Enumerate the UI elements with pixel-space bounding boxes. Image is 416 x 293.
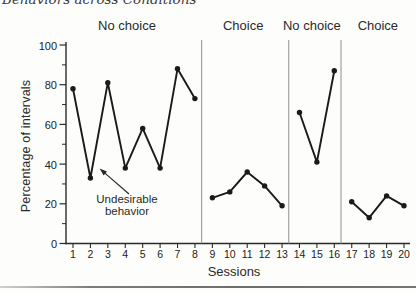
annotation-arrow-line — [105, 173, 129, 194]
phase-label-no-choice-3: No choice — [283, 18, 341, 33]
data-point-session-1 — [70, 86, 75, 91]
data-point-session-16 — [332, 68, 337, 73]
annotation-line-1: Undesirable — [67, 194, 187, 206]
x-tick-label-6: 6 — [157, 248, 163, 260]
phase-label-no-choice-1: No choice — [98, 18, 156, 33]
data-line — [300, 71, 335, 162]
x-axis-title: Sessions — [174, 264, 294, 279]
data-point-session-3 — [105, 80, 110, 85]
x-tick-label-12: 12 — [259, 248, 271, 260]
x-tick-label-18: 18 — [363, 248, 375, 260]
x-tick-label-20: 20 — [398, 248, 410, 260]
x-tick-label-7: 7 — [175, 248, 181, 260]
y-tick-label-0: 0 — [25, 238, 57, 250]
data-point-session-11 — [245, 169, 250, 174]
data-point-session-10 — [227, 189, 232, 194]
x-tick-label-2: 2 — [87, 248, 93, 260]
data-point-session-7 — [175, 66, 180, 71]
y-tick-label-20: 20 — [25, 198, 57, 210]
x-tick-label-13: 13 — [276, 248, 288, 260]
x-tick-label-5: 5 — [140, 248, 146, 260]
y-tick-label-60: 60 — [25, 119, 57, 131]
x-tick-label-9: 9 — [209, 248, 215, 260]
annotation-undesirable-behavior: Undesirable behavior — [67, 194, 187, 217]
data-point-session-9 — [210, 195, 215, 200]
data-point-session-19 — [384, 193, 389, 198]
data-point-session-6 — [157, 165, 162, 170]
x-tick-label-11: 11 — [242, 248, 253, 260]
x-tick-label-8: 8 — [192, 248, 198, 260]
data-point-session-18 — [367, 215, 372, 220]
annotation-line-2: behavior — [67, 206, 187, 218]
x-tick-label-14: 14 — [294, 248, 306, 260]
y-tick-label-80: 80 — [25, 79, 57, 91]
x-tick-label-4: 4 — [122, 248, 128, 260]
data-point-session-2 — [88, 175, 93, 180]
phase-label-choice-2: Choice — [223, 18, 263, 33]
data-point-session-13 — [279, 203, 284, 208]
y-tick-label-40: 40 — [25, 159, 57, 171]
phase-label-choice-4: Choice — [358, 18, 398, 33]
data-line — [212, 172, 282, 206]
data-point-session-14 — [297, 110, 302, 115]
x-tick-label-16: 16 — [328, 248, 340, 260]
data-point-session-8 — [192, 96, 197, 101]
data-point-session-20 — [401, 203, 406, 208]
figure-chart: Behaviors across Conditions Percentage o… — [0, 0, 416, 293]
data-point-session-5 — [140, 126, 145, 131]
data-line — [352, 196, 404, 218]
x-tick-label-19: 19 — [381, 248, 393, 260]
x-tick-label-15: 15 — [311, 248, 323, 260]
x-tick-label-10: 10 — [224, 248, 236, 260]
y-tick-label-100: 100 — [25, 40, 57, 52]
data-point-session-15 — [314, 159, 319, 164]
x-tick-label-17: 17 — [346, 248, 358, 260]
data-point-session-4 — [123, 165, 128, 170]
x-tick-label-3: 3 — [105, 248, 111, 260]
data-point-session-12 — [262, 183, 267, 188]
data-point-session-17 — [349, 199, 354, 204]
page-rule — [0, 286, 416, 288]
data-line — [73, 69, 195, 178]
x-tick-label-1: 1 — [70, 248, 76, 260]
